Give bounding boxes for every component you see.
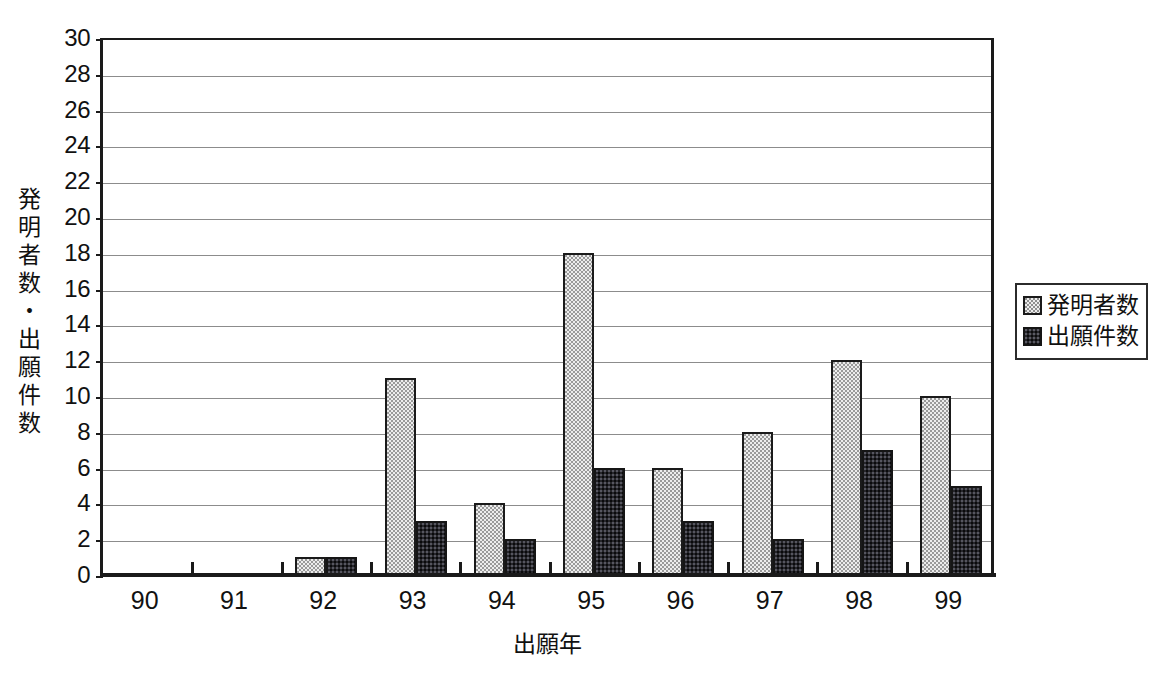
y-axis-title-char: 数 [14,409,44,437]
bar [683,521,714,575]
legend-item: 出願件数 [1023,321,1139,352]
x-axis-tick-label: 90 [100,588,190,613]
x-axis-line [100,573,996,577]
y-axis-tick-label: 14 [44,312,90,336]
y-axis-title-char: 発 [14,185,44,213]
y-axis-tick [96,397,103,399]
y-axis-tick [96,218,103,220]
bar [920,396,951,575]
x-axis-tick-label: 98 [814,588,904,613]
bar [652,468,683,575]
bar [951,486,982,576]
y-axis-tick-label: 16 [44,277,90,301]
y-axis-title-char: 明 [14,213,44,241]
x-axis-tick-label: 99 [903,588,993,613]
y-axis-tick [96,254,103,256]
bar [742,432,773,575]
x-axis-tick-label: 93 [368,588,458,613]
y-axis-title-char: 件 [14,381,44,409]
x-axis-title: 出願年 [0,633,1094,656]
y-axis-tick-label: 0 [44,563,90,587]
bar [563,253,594,575]
y-axis-tick [96,75,103,77]
y-axis-title-char: 願 [14,353,44,381]
y-axis-tick-label: 20 [44,205,90,229]
y-axis-title: 発明者数・出願件数 [14,185,44,437]
y-axis-title-char: ・ [14,297,44,325]
y-axis-tick [96,39,103,41]
y-axis-tick [96,182,103,184]
legend-label: 出願件数 [1047,325,1139,348]
y-axis-tick [96,540,103,542]
y-axis-title-char: 数 [14,269,44,297]
bar [831,360,862,575]
y-axis-tick-label: 10 [44,384,90,408]
legend-label: 発明者数 [1047,294,1139,317]
gridline [103,147,993,148]
legend-swatch [1023,296,1042,315]
bar [474,503,505,575]
bar [773,539,804,575]
x-axis-tick-label: 92 [278,588,368,613]
x-axis-tick-label: 91 [189,588,279,613]
y-axis-tick-label: 12 [44,348,90,372]
y-axis-tick-label: 26 [44,98,90,122]
y-axis-tick [96,361,103,363]
plot-right-border [991,38,994,577]
y-axis-tick-label: 24 [44,133,90,157]
y-axis-tick [96,111,103,113]
legend-swatch [1023,327,1042,346]
y-axis-title-char: 出 [14,325,44,353]
y-axis-tick [96,504,103,506]
gridline [103,291,993,292]
y-axis-tick [96,469,103,471]
x-axis-tick-label: 95 [546,588,636,613]
y-axis-tick-label: 30 [44,26,90,50]
y-axis-tick-label: 22 [44,169,90,193]
bar [594,468,625,575]
x-axis-tick-label: 97 [725,588,815,613]
y-axis-tick-label: 8 [44,420,90,444]
bar [862,450,893,575]
y-axis-tick [96,325,103,327]
y-axis-tick-label: 2 [44,527,90,551]
plot-area [100,38,993,575]
gridline [103,76,993,77]
bar-chart: 発明者数・出願件数 024681012141618202224262830 90… [0,0,1172,681]
bar [416,521,447,575]
y-axis-tick [96,433,103,435]
gridline [103,255,993,256]
gridline [103,326,993,327]
x-axis-tick-label: 94 [457,588,547,613]
gridline [103,183,993,184]
bar [385,378,416,575]
y-axis-title-char: 者 [14,241,44,269]
legend: 発明者数出願件数 [1015,283,1148,360]
legend-item: 発明者数 [1023,290,1139,321]
gridline [103,219,993,220]
y-axis-tick-label: 6 [44,456,90,480]
y-axis-tick [96,290,103,292]
y-axis-tick [96,146,103,148]
x-axis-tick-label: 96 [635,588,725,613]
bar [505,539,536,575]
y-axis-tick-label: 28 [44,62,90,86]
y-axis-tick-label: 18 [44,241,90,265]
y-axis-tick-label: 4 [44,491,90,515]
gridline [103,112,993,113]
